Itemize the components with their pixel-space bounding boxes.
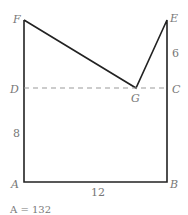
measurement-ad: 8 bbox=[13, 128, 20, 139]
measurement-ce: 6 bbox=[172, 48, 179, 59]
vertex-label-g: G bbox=[131, 93, 140, 104]
vertex-label-f: F bbox=[13, 14, 21, 25]
measurement-ab: 12 bbox=[91, 187, 105, 198]
vertex-label-b: B bbox=[170, 179, 178, 190]
vertex-label-c: C bbox=[172, 84, 180, 95]
vertex-label-e: E bbox=[170, 13, 178, 24]
area-label: A = 132 bbox=[10, 205, 51, 215]
figure-canvas bbox=[0, 0, 188, 215]
vertex-label-a: A bbox=[11, 179, 19, 190]
polygon-outline bbox=[24, 20, 167, 182]
vertex-label-d: D bbox=[10, 84, 19, 95]
